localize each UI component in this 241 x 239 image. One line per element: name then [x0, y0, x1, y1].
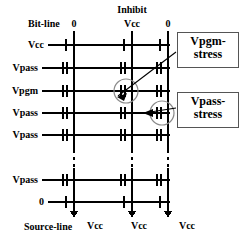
bit-line-label: Bit-line [28, 19, 60, 29]
bottom-bias-source-select-right: Vcc [174, 221, 200, 231]
vpgm-stress-callout-line1: Vpgm- [181, 35, 235, 48]
vpgm-stress-callout-line2: stress [181, 48, 235, 61]
vpass-stress-callout: Vpass- stress [177, 92, 239, 128]
vpass-stress-callout-line1: Vpass- [181, 95, 235, 108]
inhibit-label: Inhibit [108, 5, 156, 15]
bottom-bias-source-select-left: Vcc [82, 221, 108, 231]
top-bias-bitline-inhibit-center: Vcc [112, 19, 152, 29]
word-line-label-drain-select-gate: Vcc [0, 40, 44, 50]
word-line-label-source-select-gate: 0 [0, 197, 44, 207]
word-line-label-4: Vpass [0, 130, 38, 140]
word-line-label-1: Vpass [0, 63, 38, 73]
bottom-bias-source-select-center: Vcc [126, 221, 152, 231]
source-line-label: Source-line [24, 222, 72, 232]
top-bias-bitline-0-right: 0 [156, 19, 180, 29]
vpgm-stress-callout: Vpgm- stress [177, 32, 239, 68]
word-line-label-selected: Vpgm [0, 86, 38, 96]
word-line-label-3: Vpass [0, 108, 38, 118]
nand-program-disturb-diagram: Bit-line Inhibit 0 Vcc 0 Vcc Vpass Vpgm … [0, 0, 241, 239]
word-line-label-n: Vpass [0, 175, 38, 185]
top-bias-bitline-0-left: 0 [62, 19, 86, 29]
vpass-stress-arrowhead [143, 109, 153, 117]
vpass-stress-callout-line2: stress [181, 108, 235, 121]
